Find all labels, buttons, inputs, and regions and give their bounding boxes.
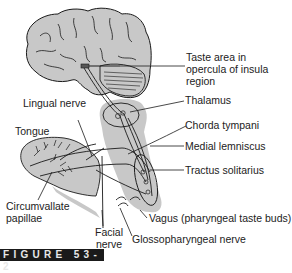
facial-line-1: Facial [95, 226, 123, 238]
label-tongue: Tongue [15, 125, 49, 137]
label-lingual-nerve: Lingual nerve [23, 97, 86, 109]
label-medial-lemniscus: Medial lemniscus [185, 140, 266, 152]
figure-label: FIGURE 53-2 [3, 249, 104, 273]
label-vagus: Vagus (pharyngeal taste buds) [149, 212, 291, 224]
label-tractus-solitarius: Tractus solitarius [185, 164, 264, 176]
taste-area-line-3: region [186, 75, 268, 87]
label-circumvallate-papillae: Circumvallate papillae [6, 200, 70, 224]
label-thalamus: Thalamus [185, 94, 231, 106]
label-taste-area: Taste area in opercula of insula region [186, 51, 268, 87]
label-chorda-tympani: Chorda tympani [185, 119, 259, 131]
circumvallate-line-1: Circumvallate [6, 200, 70, 212]
label-facial-nerve: Facial nerve [95, 226, 123, 250]
circumvallate-line-2: papillae [6, 212, 70, 224]
brain-illustration [26, 8, 151, 97]
taste-area-line-1: Taste area in [186, 51, 268, 63]
figure-caption-bar: FIGURE 53-2 [0, 249, 104, 261]
label-glossopharyngeal: Glossopharyngeal nerve [132, 233, 246, 245]
taste-area-line-2: opercula of insula [186, 63, 268, 75]
